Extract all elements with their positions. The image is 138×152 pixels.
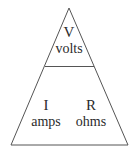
current-symbol: I [22, 98, 70, 114]
cell-resistance: R ohms [67, 98, 115, 129]
current-unit: amps [22, 115, 70, 130]
ohms-law-triangle: V volts I amps R ohms [0, 0, 138, 152]
resistance-symbol: R [67, 98, 115, 114]
cell-current: I amps [22, 98, 70, 129]
voltage-unit: volts [39, 42, 99, 57]
resistance-unit: ohms [67, 115, 115, 130]
voltage-symbol: V [39, 25, 99, 41]
cell-voltage: V volts [39, 25, 99, 56]
